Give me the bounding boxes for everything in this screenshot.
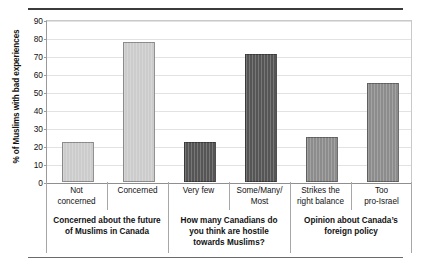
category-label-line: concerned [46,197,107,208]
y-tick-label-90: 90 [34,16,43,26]
category-label-line: Strikes the [290,186,351,197]
y-tick-label-80: 80 [34,34,43,44]
y-tick-label-70: 70 [34,52,43,62]
y-tick-label-20: 20 [34,142,43,152]
bar-chart-figure: % of Muslims with bad experiences 010203… [0,0,431,268]
category-label: Toopro-Israel [351,186,412,207]
y-tick-label-10: 10 [34,160,43,170]
category-label: Strikes theright balance [290,186,351,207]
bar [184,142,216,182]
group-label-line: of Muslims in Canada [46,226,168,237]
bar [245,54,277,182]
group-label: How many Canadians doyou think are hosti… [168,215,290,248]
group-label: Concerned about the futureof Muslims in … [46,215,168,237]
group-label: Opinion about Canada’sforeign policy [290,215,412,237]
bar-series [47,21,411,182]
top-rule [28,8,403,10]
group-label-line: foreign policy [290,226,412,237]
category-label-line: Most [229,197,290,208]
x-axis-label-band: NotconcernedConcernedVery fewSome/Many/M… [46,182,412,254]
y-axis-title: % of Muslims with bad experiences [12,12,21,182]
category-label-line: Some/Many/ [229,186,290,197]
category-label-line: Not [46,186,107,197]
bar-slot [169,21,230,182]
group-label-line: Concerned about the future [46,215,168,226]
group-label-line: you think are hostile [168,226,290,237]
y-tick-label-40: 40 [34,106,43,116]
bar [306,137,338,182]
bar-slot [47,21,108,182]
bar-slot [352,21,413,182]
bar-slot [291,21,352,182]
bar [367,83,399,182]
category-label: Some/Many/Most [229,186,290,207]
category-label: Very few [168,186,229,197]
y-tick-label-30: 30 [34,124,43,134]
bar [123,42,155,182]
plot-area: 0102030405060708090 [46,20,412,182]
bar-slot [230,21,291,182]
y-tick-label-50: 50 [34,88,43,98]
bar [62,142,94,182]
bar-slot [108,21,169,182]
category-label-line: Too [351,186,412,197]
category-label: Concerned [107,186,168,197]
category-label: Notconcerned [46,186,107,207]
group-label-line: towards Muslims? [168,237,290,248]
category-label-line: pro-Israel [351,197,412,208]
category-label-line: Concerned [107,186,168,197]
bottom-rule [28,257,403,258]
category-separator [351,182,352,210]
group-label-line: How many Canadians do [168,215,290,226]
category-separator [107,182,108,210]
category-label-line: Very few [168,186,229,197]
group-label-line: Opinion about Canada’s [290,215,412,226]
category-separator [229,182,230,210]
category-label-line: right balance [290,197,351,208]
y-tick-label-0: 0 [38,178,43,188]
y-tick-label-60: 60 [34,70,43,80]
